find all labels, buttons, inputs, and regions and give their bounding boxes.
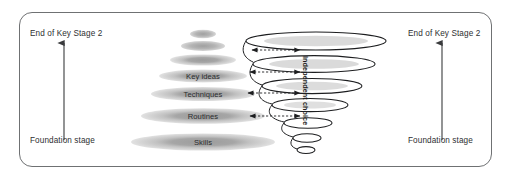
left-bottom-label: Foundation stage bbox=[30, 137, 95, 145]
independent-choice-label: Independent choice bbox=[301, 56, 309, 125]
cone-label-routines: Routines bbox=[163, 113, 243, 121]
cone-label-key-ideas: Key ideas bbox=[163, 73, 243, 81]
left-top-label: End of Key Stage 2 bbox=[30, 30, 102, 38]
right-top-label: End of Key Stage 2 bbox=[408, 30, 480, 38]
cone-label-skills: Skills bbox=[163, 139, 243, 147]
diagram-canvas: End of Key Stage 2 Foundation stage End … bbox=[0, 0, 511, 182]
cone-label-techniques: Techniques bbox=[163, 91, 243, 99]
right-bottom-label: Foundation stage bbox=[408, 137, 473, 145]
